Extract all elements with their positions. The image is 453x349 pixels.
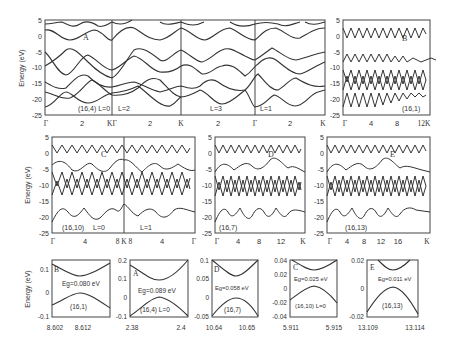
- svg-text:5: 5: [38, 17, 42, 24]
- annotation-e-gap: (16,13): [382, 302, 403, 310]
- svg-text:0: 0: [45, 150, 49, 157]
- svg-text:-25: -25: [202, 230, 212, 237]
- svg-text:2: 2: [80, 119, 84, 128]
- annotation-16-4-l0: (16,4) L=0: [78, 105, 110, 113]
- svg-text:-10: -10: [314, 182, 324, 189]
- svg-text:-10: -10: [330, 64, 340, 71]
- svg-text:-0.1: -0.1: [38, 313, 50, 320]
- svg-text:Γ: Γ: [253, 119, 258, 128]
- gap-value-a: Eg=0.089 eV: [138, 287, 176, 295]
- svg-text:K: K: [320, 119, 326, 128]
- svg-text:2.38: 2.38: [126, 324, 139, 331]
- svg-text:10.65: 10.65: [239, 324, 256, 331]
- panel-label-c: C: [101, 150, 106, 159]
- annotation-16-7: (16,7): [219, 224, 237, 232]
- segment-label-l3: L=3: [210, 105, 222, 112]
- svg-text:10.64: 10.64: [206, 324, 223, 331]
- svg-text:2.4: 2.4: [176, 324, 185, 331]
- svg-text:0: 0: [45, 289, 49, 296]
- svg-text:0: 0: [360, 285, 364, 292]
- svg-text:-20: -20: [314, 214, 324, 221]
- annotation-16-1: (16,1): [402, 105, 420, 113]
- svg-text:4: 4: [345, 237, 349, 246]
- svg-text:13.109: 13.109: [358, 324, 378, 331]
- svg-text:12: 12: [277, 237, 285, 246]
- svg-text:12K: 12K: [418, 119, 432, 128]
- annotation-16-10: (16,10): [62, 224, 84, 232]
- svg-text:-10: -10: [202, 182, 212, 189]
- svg-text:-15: -15: [314, 198, 324, 205]
- svg-text:-5: -5: [318, 166, 324, 173]
- svg-text:5: 5: [336, 17, 340, 24]
- svg-text:0: 0: [205, 294, 209, 301]
- panel-label-d: D: [268, 150, 274, 159]
- svg-text:-10: -10: [32, 64, 42, 71]
- svg-text:0.2: 0.2: [118, 257, 127, 264]
- svg-text:0.05: 0.05: [196, 275, 209, 282]
- svg-text:5.911: 5.911: [283, 324, 299, 331]
- svg-text:12: 12: [377, 237, 385, 246]
- svg-text:0.02: 0.02: [274, 271, 287, 278]
- svg-text:-5: -5: [43, 166, 49, 173]
- svg-text:0: 0: [123, 294, 127, 301]
- svg-text:5: 5: [208, 134, 212, 141]
- svg-text:K: K: [424, 237, 430, 246]
- band-structure-figure: 5 0 -5 -10 -15 -20 -25 Energy (eV) Γ 2 K…: [0, 0, 453, 349]
- svg-text:-5: -5: [334, 49, 340, 56]
- svg-text:-0.05: -0.05: [194, 313, 209, 320]
- svg-text:4: 4: [236, 237, 240, 246]
- svg-text:16: 16: [394, 237, 402, 246]
- segment-label-l0: L=0: [93, 224, 105, 231]
- svg-text:2: 2: [148, 119, 152, 128]
- svg-text:-15: -15: [32, 80, 42, 87]
- svg-text:0: 0: [208, 150, 212, 157]
- svg-text:-0.04: -0.04: [272, 313, 287, 320]
- svg-text:Γ: Γ: [328, 237, 333, 246]
- svg-text:-15: -15: [202, 198, 212, 205]
- svg-text:-25: -25: [32, 112, 42, 119]
- svg-text:13.114: 13.114: [405, 324, 425, 331]
- annotation-a-gap: (16,4) L=0: [140, 306, 170, 314]
- svg-text:K: K: [178, 119, 184, 128]
- svg-text:-0.02: -0.02: [272, 299, 287, 306]
- gap-value-e: Eg=0.011 eV: [378, 276, 411, 282]
- svg-text:-5: -5: [206, 166, 212, 173]
- svg-text:0: 0: [283, 285, 287, 292]
- svg-text:Γ: Γ: [51, 237, 56, 246]
- svg-text:8.612: 8.612: [75, 324, 92, 331]
- svg-text:4: 4: [369, 119, 373, 128]
- svg-text:Γ: Γ: [215, 237, 220, 246]
- svg-text:8.602: 8.602: [47, 324, 64, 331]
- svg-text:-25: -25: [314, 230, 324, 237]
- svg-text:4: 4: [160, 237, 164, 246]
- panel-label-d-gap: D: [214, 265, 220, 274]
- svg-text:5: 5: [320, 134, 324, 141]
- svg-text:Γ: Γ: [192, 237, 197, 246]
- svg-text:4: 4: [83, 237, 87, 246]
- svg-text:-25: -25: [330, 112, 340, 119]
- svg-text:-0.02: -0.02: [349, 313, 364, 320]
- row1-ylabel: Energy (eV): [18, 49, 26, 86]
- panel-label-b-gap: B: [54, 265, 59, 274]
- annotation-b-gap: (16,1): [70, 303, 87, 311]
- svg-text:8: 8: [362, 237, 366, 246]
- segment-label-l1: L=1: [140, 224, 152, 231]
- gap-value-c: Eg=0.025 eV: [294, 276, 328, 282]
- panel-label-a-gap: A: [133, 269, 139, 278]
- svg-text:0.02: 0.02: [351, 257, 364, 264]
- svg-text:Γ: Γ: [343, 119, 348, 128]
- svg-text:0: 0: [320, 150, 324, 157]
- segment-label-l1: L=1: [260, 105, 272, 112]
- svg-text:-25: -25: [39, 230, 49, 237]
- panel-label-b: B: [402, 34, 407, 43]
- svg-text:0.1: 0.1: [40, 266, 49, 273]
- segment-label-l2: L=2: [118, 105, 130, 112]
- svg-text:8: 8: [395, 119, 399, 128]
- svg-text:2: 2: [288, 119, 292, 128]
- panel-label-c-gap: C: [293, 263, 298, 272]
- svg-text:5: 5: [45, 134, 49, 141]
- svg-text:0.04: 0.04: [274, 257, 287, 264]
- svg-text:0: 0: [38, 33, 42, 40]
- svg-text:-15: -15: [39, 198, 49, 205]
- svg-text:-15: -15: [330, 80, 340, 87]
